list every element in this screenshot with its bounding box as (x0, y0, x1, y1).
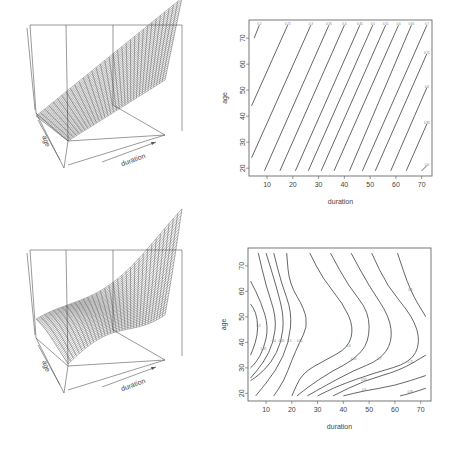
y-tick-label: 70 (239, 34, 246, 42)
y-tick-label: 70 (238, 262, 245, 270)
contour-label: 0.65 (408, 22, 414, 26)
x-tick-label: 30 (315, 181, 323, 188)
y-tick-label: 30 (239, 138, 246, 146)
y-axis-label: age (221, 92, 229, 104)
contour-line (318, 253, 419, 396)
contour-line (362, 25, 426, 171)
y-tick-label: 40 (239, 112, 246, 120)
y-tick-label: 40 (238, 338, 245, 346)
x-tick-label: 20 (289, 181, 297, 188)
contour-line (280, 25, 344, 171)
contour-line (321, 25, 385, 171)
contour-label: 0.4 (272, 339, 277, 343)
contour-label: 0.95 (407, 390, 413, 394)
y-tick-label: 50 (239, 86, 246, 94)
contour-label: 0.75 (424, 51, 430, 55)
contour-label: 0.6 (396, 22, 401, 26)
surface-y-label: age (40, 134, 52, 148)
y-tick-label: 60 (238, 287, 245, 295)
contour-label: 0.3 (256, 324, 261, 328)
contour-line (292, 253, 352, 396)
x-tick-label: 10 (262, 406, 270, 413)
surface-x-label: duration (120, 377, 146, 392)
contour-label: 0.55 (383, 22, 389, 26)
contour-line (295, 25, 359, 171)
contour-label: 0.5 (371, 22, 376, 26)
contour-plot-top: 10203040506070203040506070durationage0.2… (221, 20, 432, 205)
contour-label: 0.55 (297, 339, 303, 343)
x-axis-label: duration (327, 423, 352, 430)
surface-plot-top: ageduration (27, 0, 182, 168)
y-tick-label: 20 (239, 164, 246, 172)
contour-label: 0.8 (408, 288, 413, 292)
contour-label: 0.85 (424, 121, 430, 125)
x-tick-label: 40 (339, 406, 347, 413)
surface-x-label: duration (120, 152, 146, 167)
surface-plot-bottom: ageduration (27, 209, 182, 393)
y-axis-label: age (220, 319, 228, 331)
contour-line (391, 88, 427, 171)
x-tick-label: 50 (366, 181, 374, 188)
contour-label: 0.45 (357, 22, 363, 26)
contour-line (406, 124, 427, 171)
y-tick-label: 20 (238, 389, 245, 397)
x-tick-label: 40 (340, 181, 348, 188)
y-tick-label: 30 (238, 364, 245, 372)
contour-line (251, 304, 258, 355)
contour-label: 0.6 (346, 344, 351, 348)
contour-label: 0.85 (361, 378, 367, 382)
contour-line (256, 253, 291, 396)
contour-label: 0.3 (309, 22, 314, 26)
contour-label: 0.2 (257, 22, 262, 26)
contour-label: 0.35 (261, 347, 267, 351)
contour-label: 0.9 (425, 163, 430, 167)
contour-line (343, 376, 425, 396)
x-tick-label: 10 (263, 181, 271, 188)
contour-label: 0.7 (377, 357, 382, 361)
x-tick-label: 50 (365, 406, 373, 413)
figure-canvas: 10203040506070203040506070durationage0.2… (0, 0, 454, 451)
contour-line (307, 253, 391, 396)
contour-label: 0.25 (285, 22, 291, 26)
contour-line (350, 25, 412, 171)
x-tick-label: 20 (288, 406, 296, 413)
contour-plot-bottom: 10203040506070203040506070durationage0.3… (220, 248, 431, 430)
contour-line (254, 25, 259, 38)
contour-label: 0.4 (342, 22, 347, 26)
contour-line (274, 253, 307, 396)
contour-line (297, 253, 369, 396)
x-tick-label: 70 (417, 406, 425, 413)
contour-label: 0.65 (351, 357, 357, 361)
x-tick-label: 70 (418, 181, 426, 188)
y-tick-label: 60 (239, 60, 246, 68)
x-tick-label: 30 (314, 406, 322, 413)
contour-line (252, 25, 288, 106)
surface-y-label: age (40, 359, 52, 373)
contour-line (397, 253, 425, 317)
contour-line (308, 25, 372, 171)
contour-label: 0.45 (279, 339, 285, 343)
contour-line (252, 25, 311, 158)
contour-line (264, 25, 328, 171)
x-tick-label: 60 (392, 181, 400, 188)
contour-line (251, 253, 284, 381)
contour-label: 0.7 (425, 22, 430, 26)
y-tick-label: 50 (238, 313, 245, 321)
contour-label: 0.5 (287, 339, 292, 343)
contour-line (375, 54, 427, 171)
x-tick-label: 60 (391, 406, 399, 413)
contour-line (334, 25, 398, 171)
x-axis-label: duration (328, 198, 353, 205)
contour-label: 0.35 (326, 22, 332, 26)
contour-label: 0.8 (425, 85, 430, 89)
contour-label: 0.9 (362, 388, 367, 392)
